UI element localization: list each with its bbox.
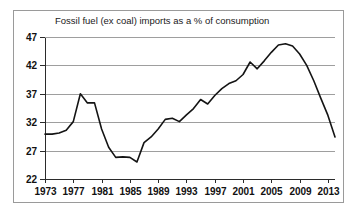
data-series-line — [45, 44, 335, 162]
xtick-label: 1985 — [119, 186, 142, 197]
xtick-label: 2001 — [232, 186, 255, 197]
xtick-label: 1989 — [147, 186, 170, 197]
ytick-label: 37 — [26, 89, 38, 100]
xtick-label: 1997 — [204, 186, 227, 197]
ytick-label: 22 — [26, 174, 38, 185]
ytick-label: 32 — [26, 117, 38, 128]
ytick-label: 27 — [26, 146, 38, 157]
xtick-label: 1981 — [91, 186, 114, 197]
line-chart: 474237322722 197319771981198519891993199… — [14, 11, 343, 202]
chart-figure: 474237322722 197319771981198519891993199… — [13, 10, 344, 203]
gridlines-group — [45, 38, 335, 180]
xtick-label: 1973 — [34, 186, 57, 197]
xtick-label: 2013 — [317, 186, 340, 197]
chart-title: Fossil fuel (ex coal) imports as a % of … — [55, 15, 269, 26]
ytick-label: 42 — [26, 60, 38, 71]
axis-lines — [46, 38, 336, 180]
xtick-label: 1977 — [62, 186, 85, 197]
ytick-label: 47 — [26, 32, 38, 43]
xtick-label: 2005 — [260, 186, 283, 197]
xtick-label: 2009 — [289, 186, 312, 197]
xtick-label: 1993 — [175, 186, 198, 197]
xtick-labels-group: 1973197719811985198919931997200120052009… — [34, 186, 340, 197]
ytick-marks-group — [40, 38, 45, 180]
ytick-labels-group: 474237322722 — [26, 32, 38, 185]
